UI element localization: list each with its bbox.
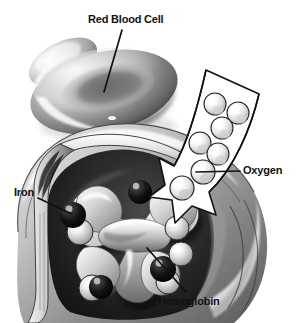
iron-atom-3 <box>89 275 113 299</box>
label-red-blood-cell: Red Blood Cell <box>88 14 163 25</box>
oxygen-sphere <box>207 143 229 165</box>
iron-atom-2-highlight <box>133 183 139 189</box>
diagram-canvas <box>0 0 301 323</box>
oxygen-sphere <box>170 176 194 200</box>
iron-atom-1 <box>60 202 86 228</box>
label-oxygen: Oxygen <box>243 165 282 176</box>
iron-atom-3-highlight <box>94 278 100 284</box>
oxygen-sphere-inner-2 <box>169 242 193 266</box>
oxygen-sphere <box>211 117 233 139</box>
iron-atom-2 <box>128 180 152 204</box>
oxygen-sphere <box>204 93 226 115</box>
illustration-figure: Red Blood Cell Oxygen Iron Hemoglobin <box>0 0 301 323</box>
leader-line-oxygen <box>196 171 240 172</box>
label-iron: Iron <box>14 187 34 198</box>
label-hemoglobin: Hemoglobin <box>158 296 220 307</box>
